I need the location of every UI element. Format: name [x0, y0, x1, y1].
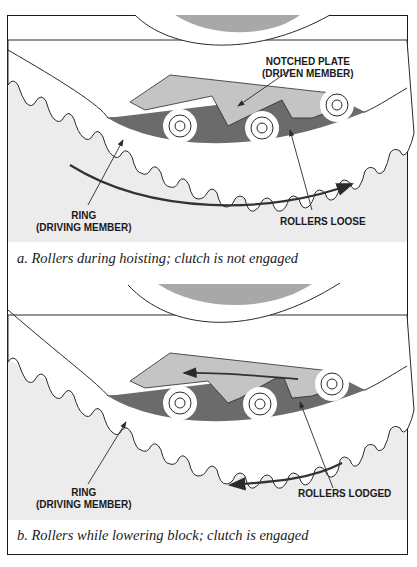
ring-label-line1: RING [36, 487, 132, 499]
ring-label-line1: RING [36, 210, 132, 222]
caption-b: b. Rollers while lowering block; clutch … [17, 527, 309, 544]
rollers-loose-label: ROLLERS LOOSE [280, 216, 366, 228]
roller-icon [163, 386, 197, 420]
caption-a: a. Rollers during hoisting; clutch is no… [17, 250, 298, 267]
roller-icon [163, 109, 197, 143]
rollers-loose-text: ROLLERS LOOSE [280, 216, 366, 228]
roller-icon [243, 387, 277, 421]
rollers-lodged-text: ROLLERS LODGED [298, 488, 391, 500]
clutch-diagram-svg [0, 0, 417, 567]
notched-plate-label-line2: (DRIVEN MEMBER) [262, 68, 354, 80]
roller-icon [315, 367, 349, 401]
ring-label-line2: (DRIVING MEMBER) [36, 222, 132, 234]
panel-b-drawing [8, 283, 414, 520]
ring-label-a: RING (DRIVING MEMBER) [36, 210, 132, 234]
rollers-lodged-label: ROLLERS LODGED [298, 488, 391, 500]
panel-a-drawing [8, 15, 414, 242]
notched-plate-label-line1: NOTCHED PLATE [262, 56, 354, 68]
ring-label-line2: (DRIVING MEMBER) [36, 499, 132, 511]
roller-icon [245, 111, 279, 145]
notched-plate-label: NOTCHED PLATE (DRIVEN MEMBER) [262, 56, 354, 80]
ring-label-b: RING (DRIVING MEMBER) [36, 487, 132, 511]
roller-icon [320, 88, 354, 122]
